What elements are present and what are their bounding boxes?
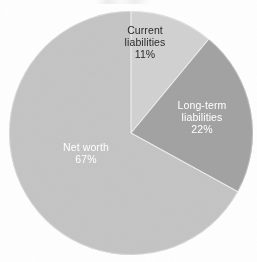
pie-chart-canvas <box>0 0 257 262</box>
pie-chart-figure: Current liabilities 11% Long-term liabil… <box>0 0 257 262</box>
